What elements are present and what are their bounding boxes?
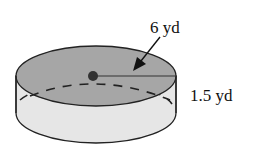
radius-label: 6 yd xyxy=(150,19,180,36)
cylinder-diagram: 6 yd 1.5 yd xyxy=(0,0,259,147)
height-label: 1.5 yd xyxy=(190,87,233,104)
cylinder-drawing xyxy=(0,0,259,147)
